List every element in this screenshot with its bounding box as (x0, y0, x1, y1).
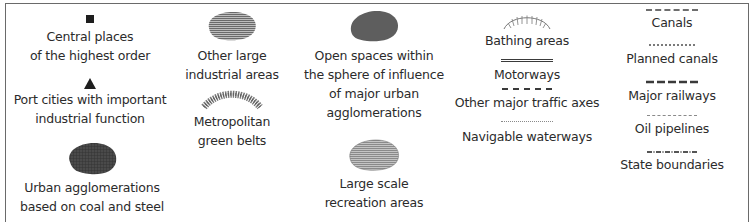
legend-label: Oil pipelines (600, 119, 744, 138)
legend-item-state-boundaries: State boundaries (600, 150, 744, 174)
long-dash-line-icon (646, 80, 698, 84)
dark-grey-blob-icon (347, 9, 401, 43)
legend-item-industrial-areas: Other large industrial areas (176, 10, 288, 84)
legend-item-major-railways: Major railways (600, 80, 744, 105)
legend-item-oil-pipelines: Oil pipelines (600, 115, 744, 138)
legend-label: Navigable waterways (452, 127, 602, 146)
legend-label: Open spaces within the sphere of influen… (292, 46, 456, 122)
legend-item-bathing-areas: Bathing areas (452, 8, 602, 50)
comb-arc-icon (499, 8, 555, 30)
legend-item-recreation-areas: Large scale recreation areas (300, 138, 448, 212)
dash-dot-line-icon (646, 9, 698, 11)
legend-label: Other major traffic axes (446, 93, 608, 112)
legend-item-traffic-axes: Other major traffic axes (446, 88, 608, 112)
legend-label: Large scale recreation areas (300, 174, 448, 212)
legend-item-waterways: Navigable waterways (452, 121, 602, 146)
legend-item-motorways: Motorways (452, 59, 602, 84)
legend-label: Central places of the highest order (10, 27, 170, 65)
dashed-line-icon (502, 88, 552, 90)
legend-label: Metropolitan green belts (176, 112, 288, 150)
legend-label: Urban agglomerations based on coal and s… (10, 178, 174, 216)
dark-crosshatch-blob-icon (64, 140, 120, 176)
cross-dash-line-icon (647, 150, 697, 154)
thin-dotted-line-icon (501, 121, 553, 122)
legend-label: Motorways (452, 65, 602, 84)
legend-label: Port cities with important industrial fu… (2, 90, 178, 128)
black-triangle-icon (84, 78, 96, 89)
fine-dash-line-icon (647, 115, 697, 116)
legend-label: Major railways (600, 86, 744, 105)
light-hatch-blob-icon (346, 138, 402, 172)
legend-label: Other large industrial areas (176, 46, 288, 84)
stippled-arc-band-icon (200, 86, 264, 110)
legend-label: Bathing areas (452, 31, 602, 50)
legend-item-urban-agglomerations: Urban agglomerations based on coal and s… (10, 140, 174, 216)
legend-label: Canals (600, 13, 744, 32)
legend-label: Planned canals (600, 49, 744, 68)
legend-item-canals: Canals (600, 9, 744, 32)
legend-item-open-spaces: Open spaces within the sphere of influen… (292, 9, 456, 122)
legend-item-green-belts: Metropolitan green belts (176, 86, 288, 150)
short-dash-line-icon (649, 44, 695, 46)
solid-double-line-icon (501, 59, 553, 62)
legend-item-port-cities: Port cities with important industrial fu… (2, 78, 178, 128)
legend-item-central-places: Central places of the highest order (10, 14, 170, 65)
horizontal-hatch-blob-icon (205, 10, 259, 42)
black-square-icon (85, 14, 95, 24)
legend-item-planned-canals: Planned canals (600, 44, 744, 68)
legend-label: State boundaries (600, 155, 744, 174)
